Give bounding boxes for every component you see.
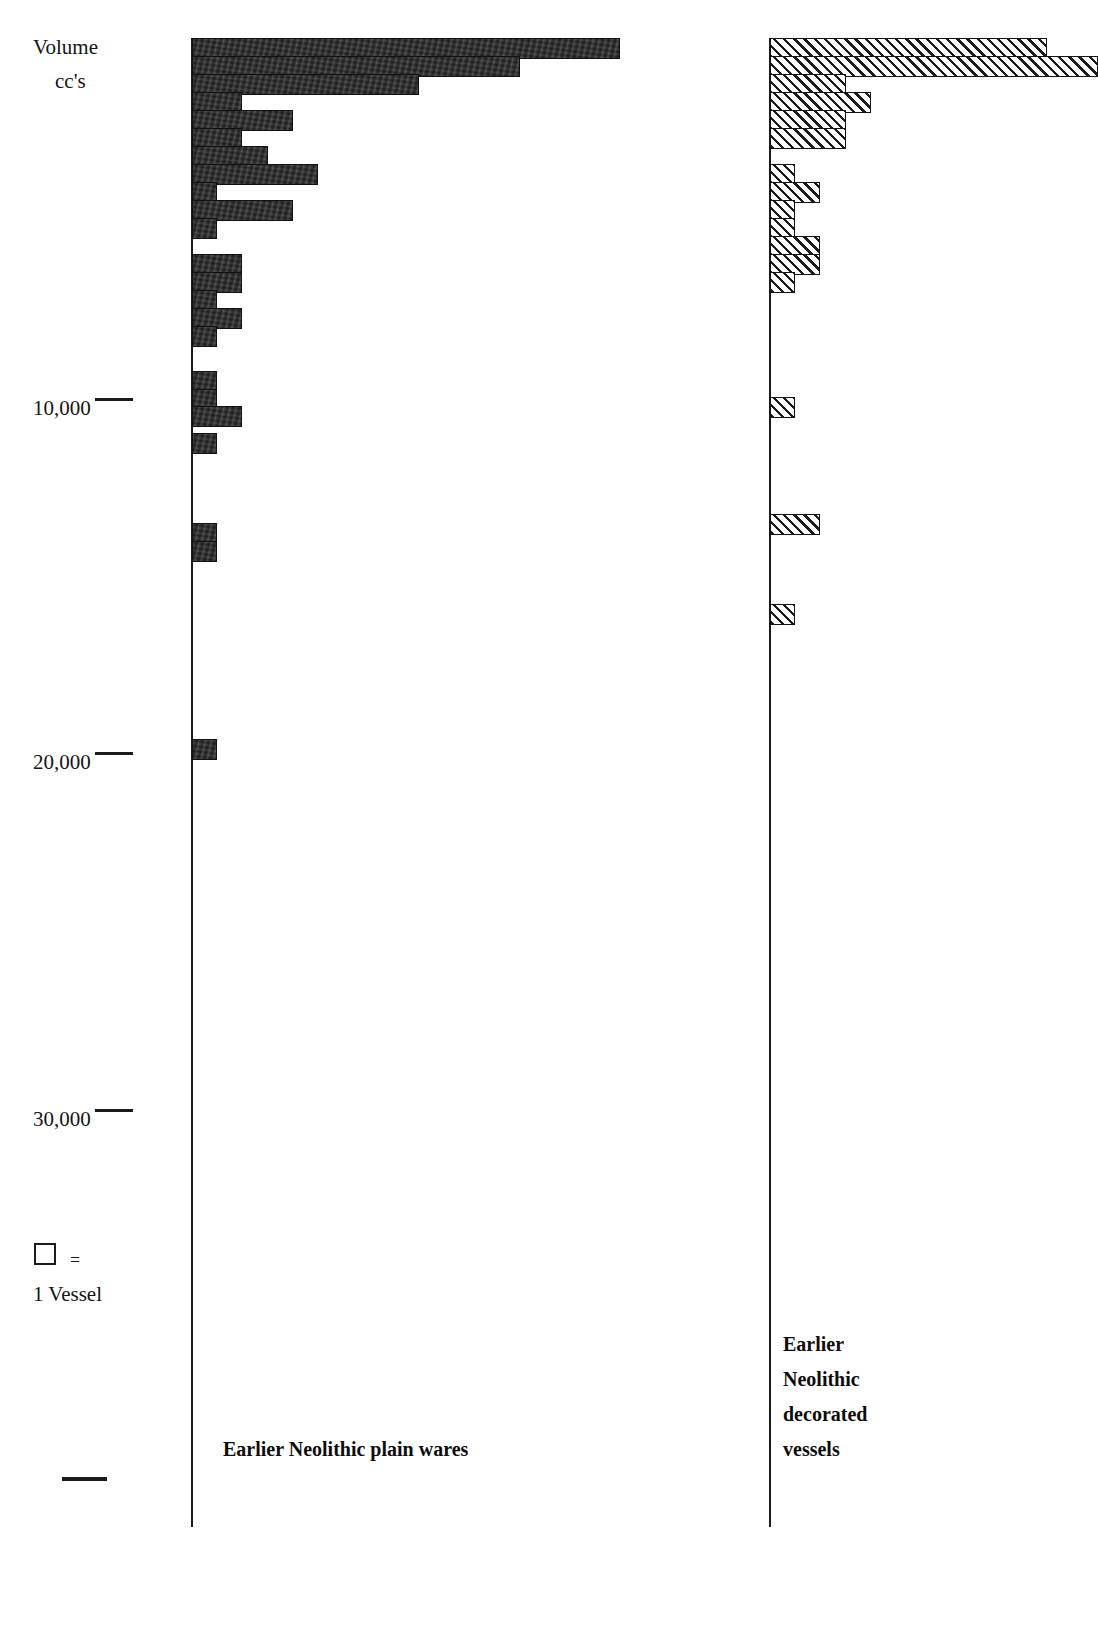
bar xyxy=(192,433,217,454)
right-series-caption-line4: vessels xyxy=(783,1432,867,1467)
legend-label: 1 Vessel xyxy=(33,1282,102,1306)
y-tick-label-30000: 30,000 xyxy=(33,1107,91,1131)
right-series-caption-line3: decorated xyxy=(783,1397,867,1432)
bar xyxy=(770,604,795,625)
y-tick-label-10000: 10,000 xyxy=(33,396,91,420)
bar xyxy=(770,272,795,293)
y-tick-mark-20000 xyxy=(95,752,133,755)
left-series-caption: Earlier Neolithic plain wares xyxy=(223,1434,468,1464)
legend-equals-symbol: = xyxy=(70,1250,80,1270)
y-tick-label-20000: 20,000 xyxy=(33,750,91,774)
legend-swatch-icon xyxy=(34,1243,56,1265)
right-series-caption-line1: Earlier xyxy=(783,1327,867,1362)
bar xyxy=(192,541,217,562)
right-series-caption-line2: Neolithic xyxy=(783,1362,867,1397)
y-tick-mark-10000 xyxy=(95,398,133,401)
y-axis-title-line1: Volume xyxy=(33,32,98,62)
y-tick-mark-30000 xyxy=(95,1109,133,1112)
bar xyxy=(770,514,820,535)
bar xyxy=(192,406,242,427)
y-tick-mark-bottom xyxy=(62,1477,107,1481)
right-series-caption: Earlier Neolithic decorated vessels xyxy=(783,1327,867,1467)
bar xyxy=(770,128,846,149)
bar xyxy=(770,397,795,418)
y-axis-title-line2: cc's xyxy=(55,66,86,96)
bar xyxy=(192,739,217,760)
bar xyxy=(192,218,217,239)
bar xyxy=(192,326,217,347)
